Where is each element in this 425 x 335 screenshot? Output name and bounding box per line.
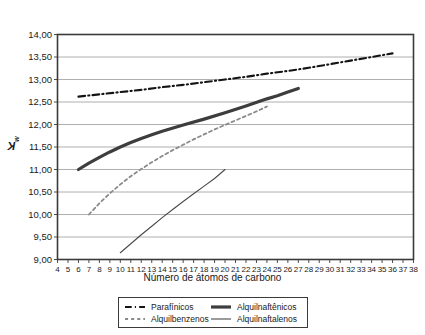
series-line-4 [120, 170, 225, 253]
x-axis-title: Número de átomos de carbono [0, 272, 425, 283]
legend-item[interactable]: Alquilbenzenos [124, 313, 210, 325]
legend-label: Parafínicos [151, 302, 194, 312]
legend-label: Alquilnaftalenos [237, 314, 297, 324]
legend-item[interactable]: Alquilnaftênicos [210, 301, 310, 313]
legend: ParafínicosAlquilnaftênicosAlquilbenzeno… [118, 297, 308, 328]
legend-label: Alquilbenzenos [151, 314, 209, 324]
plot-area [0, 0, 425, 335]
series-line-1 [78, 53, 392, 96]
legend-label: Alquilnaftênicos [237, 302, 297, 312]
legend-swatch-icon [124, 314, 146, 324]
legend-swatch-icon [210, 314, 232, 324]
series-line-2 [78, 89, 298, 170]
legend-swatch-icon [210, 302, 232, 312]
chart-container: Kw 9,009,5010,0010,5011,0011,5012,0012,5… [0, 0, 425, 335]
legend-item[interactable]: Parafínicos [124, 301, 210, 313]
legend-item[interactable]: Alquilnaftalenos [210, 313, 310, 325]
legend-swatch-icon [124, 302, 146, 312]
series-line-3 [89, 107, 267, 215]
